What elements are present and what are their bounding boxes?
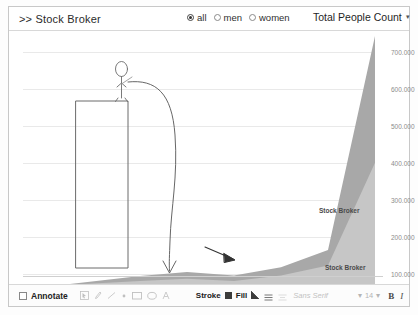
stroke-color-swatch[interactable] (225, 292, 232, 299)
font-size-value: 14 (365, 291, 373, 300)
bold-button[interactable]: B (388, 291, 394, 301)
y-tick-label: 500.000 (391, 123, 415, 130)
rectangle-icon[interactable] (132, 291, 142, 300)
align-left-icon[interactable] (264, 287, 273, 305)
series-label-lower: Stock Broker (325, 264, 365, 271)
y-tick-label: 700.000 (391, 49, 415, 56)
ellipse-icon[interactable] (147, 291, 157, 300)
radio-women-label: women (259, 12, 290, 23)
font-size-decrease-icon[interactable]: ▾ (358, 291, 362, 300)
metric-dropdown[interactable]: Total People Count ▾ (313, 11, 410, 23)
radio-men-dot[interactable] (214, 14, 221, 21)
annotate-toggle[interactable]: Annotate (19, 291, 68, 301)
y-tick-label: 300.000 (391, 197, 415, 204)
italic-button[interactable]: I (400, 291, 403, 301)
stroke-label: Stroke (196, 291, 221, 300)
radio-all[interactable]: all (187, 12, 207, 23)
pencil-icon[interactable] (94, 291, 102, 300)
fill-color-swatch[interactable] (251, 291, 259, 301)
font-size-increase-icon[interactable]: ▾ (376, 291, 380, 300)
plot-region: 700.000 600.000 500.000 400.000 300.000 … (23, 39, 375, 277)
alignment-group[interactable] (264, 287, 287, 305)
drawing-tools-group[interactable] (80, 291, 170, 300)
radio-all-label: all (197, 12, 207, 23)
gender-radio-group[interactable]: all men women (187, 12, 290, 23)
chart-area: 700.000 600.000 500.000 400.000 300.000 … (9, 31, 409, 285)
app-frame: >> Stock Broker all men women Total Peop… (8, 6, 410, 307)
text-style-group[interactable]: B I (388, 291, 403, 301)
annotation-toolbar: Annotate (9, 284, 409, 306)
radio-women-dot[interactable] (249, 14, 256, 21)
area-series-upper (23, 36, 375, 285)
font-size-stepper[interactable]: ▾ 14 ▾ (358, 291, 380, 300)
page-title: >> Stock Broker (19, 13, 101, 25)
header-bar: >> Stock Broker all men women Total Peop… (9, 7, 409, 31)
stroke-fill-group[interactable]: Stroke Fill (196, 291, 259, 301)
radio-men[interactable]: men (214, 12, 242, 23)
metric-dropdown-value: Total People Count (313, 11, 402, 23)
select-icon[interactable] (80, 291, 89, 300)
area-series-group (23, 39, 375, 277)
y-tick-label: 600.000 (391, 86, 415, 93)
app-window: >> Stock Broker all men women Total Peop… (0, 0, 418, 315)
text-icon[interactable] (162, 291, 170, 300)
radio-women[interactable]: women (249, 12, 290, 23)
radio-all-dot[interactable] (187, 14, 194, 21)
line-icon[interactable] (107, 291, 116, 300)
x-axis-line (23, 276, 383, 277)
series-label-upper: Stock Broker (319, 207, 359, 214)
fill-label: Fill (236, 291, 248, 300)
radio-men-label: men (224, 12, 242, 23)
y-tick-label: 400.000 (391, 160, 415, 167)
font-family-select[interactable]: Sans Serif (293, 291, 328, 300)
dot-icon[interactable] (121, 291, 127, 300)
align-center-icon[interactable] (278, 287, 287, 305)
annotate-checkbox[interactable] (19, 292, 27, 300)
y-tick-label: 200.000 (391, 234, 415, 241)
annotate-label: Annotate (31, 291, 68, 301)
chevron-down-icon: ▾ (406, 13, 410, 21)
y-tick-label: 100.000 (391, 271, 415, 278)
